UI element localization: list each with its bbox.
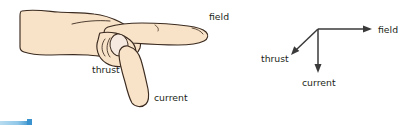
corner-accent-tip bbox=[27, 119, 32, 125]
flemings-left-hand-rule-figure: field thrust current field thrust curren… bbox=[0, 0, 414, 127]
hand-label-field: field bbox=[209, 11, 229, 22]
vector-label-current: current bbox=[302, 77, 336, 88]
corner-accent-bar bbox=[0, 121, 30, 125]
hand-label-thrust: thrust bbox=[92, 64, 120, 75]
hand-label-current: current bbox=[154, 92, 188, 103]
vector-label-thrust: thrust bbox=[261, 53, 289, 64]
figure-canvas: field thrust current field thrust curren… bbox=[0, 0, 414, 127]
vector-label-field: field bbox=[378, 24, 398, 35]
